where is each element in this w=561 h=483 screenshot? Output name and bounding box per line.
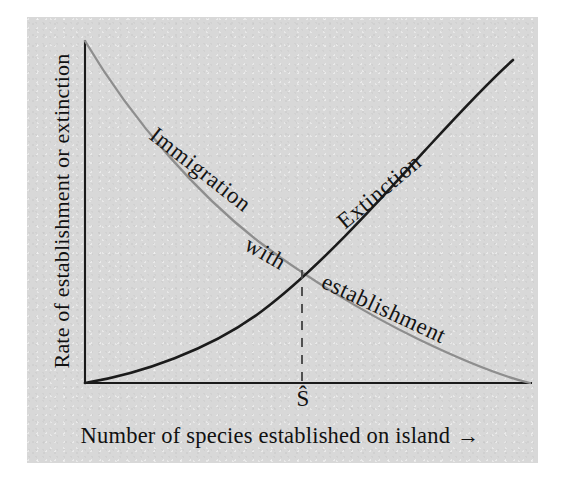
x-axis-label: Number of species established on island→ <box>40 423 520 449</box>
x-axis-label-text: Number of species established on island <box>81 423 451 448</box>
figure-root: Immigration with establishment Extinctio… <box>0 0 561 483</box>
y-axis-label: Rate of establishment or extinction <box>49 41 75 381</box>
x-axis-arrow-icon: → <box>457 423 479 449</box>
x-tick-label-s-hat: Ŝ <box>281 386 325 412</box>
